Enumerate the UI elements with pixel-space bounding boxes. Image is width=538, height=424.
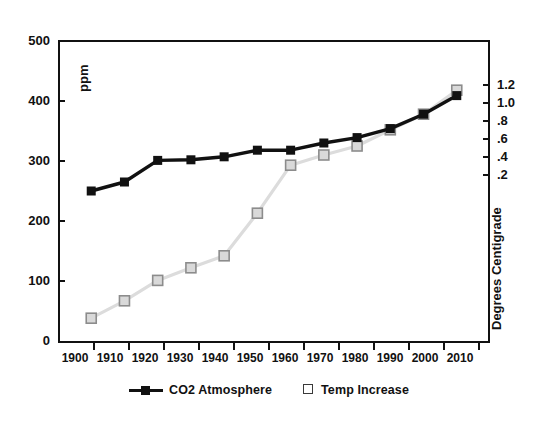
y2-axis-tick [483,120,490,122]
y-axis-tick [58,280,65,282]
x-axis-tick [408,343,410,350]
x-axis-tick [373,343,375,350]
open-square-marker-icon [302,384,315,396]
y2-axis-tick-label: .2 [497,168,537,181]
x-axis-tick [443,343,445,350]
chart-figure: 500 400 300 200 100 0 1.2 1.0 .8 .6 .4 .… [0,0,538,424]
y-axis-tick [58,220,65,222]
y2-axis-tick-label: .8 [497,114,537,127]
y-axis-tick-label: 200 [6,214,50,227]
x-axis-tick [128,343,130,350]
y2-axis-tick [483,138,490,140]
filled-square-marker-icon [129,384,163,396]
y-axis-tick-label: 100 [6,274,50,287]
x-axis-tick [198,343,200,350]
x-axis-tick [303,343,305,350]
legend-item-co2[interactable]: CO2 Atmosphere [129,383,272,397]
y2-axis-tick [483,174,490,176]
x-axis-tick [233,343,235,350]
y2-axis-tick [483,84,490,86]
y2-axis-tick [483,156,490,158]
x-axis-tick [268,343,270,350]
y-axis-tick-label: 500 [6,34,50,47]
y2-axis-tick-label: 1.2 [497,78,537,91]
y2-axis-title: Degrees Centigrade [489,207,504,330]
x-axis-tick-label: 2010 [438,352,482,364]
chart-legend: CO2 Atmosphere Temp Increase [0,383,538,397]
x-axis-tick [93,343,95,350]
legend-label-temp: Temp Increase [321,383,409,397]
y2-axis-tick-label: .6 [497,132,537,145]
y-axis-tick-label: 0 [6,334,50,347]
x-axis-tick [163,343,165,350]
y-axis-tick [58,100,65,102]
x-axis-tick [478,343,480,350]
x-axis-tick [338,343,340,350]
legend-label-co2: CO2 Atmosphere [169,383,272,397]
y2-axis-tick-label: 1.0 [497,96,537,109]
legend-item-temp[interactable]: Temp Increase [302,383,409,397]
plot-area [58,40,490,343]
y2-axis-tick [483,102,490,104]
y2-axis-tick-label: .4 [497,150,537,163]
y-axis-tick-label: 300 [6,154,50,167]
y-axis-tick [58,160,65,162]
y-axis-title: ppm [76,65,91,92]
y-axis-tick-label: 400 [6,94,50,107]
